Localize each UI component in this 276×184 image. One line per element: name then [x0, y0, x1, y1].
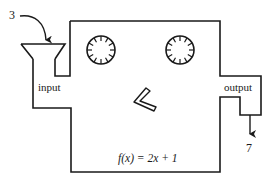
chevron-lever-icon	[134, 88, 156, 111]
machine-body	[33, 21, 261, 172]
input-arrow-icon	[20, 16, 46, 40]
gear-dial-left-icon	[87, 36, 115, 64]
input-label: input	[38, 82, 61, 93]
input-funnel	[21, 44, 65, 59]
input-value: 3	[9, 10, 15, 21]
output-label: output	[224, 82, 252, 93]
function-rule: f(x) = 2x + 1	[118, 153, 178, 164]
gear-dial-right-icon	[166, 36, 194, 64]
output-value: 7	[246, 143, 252, 154]
